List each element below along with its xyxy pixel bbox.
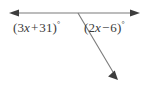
left-angle-constant: 31 (39, 20, 52, 35)
left-angle-degree-symbol: ° (57, 20, 60, 29)
right-angle-constant: 6 (110, 20, 117, 35)
right-angle-operator: − (101, 20, 110, 35)
left-angle-operator: + (30, 20, 39, 35)
left-angle-label: (3x+31)° (13, 21, 60, 34)
angle-diagram-figure: (3x+31)° (2x−6)° (0, 0, 147, 94)
right-angle-degree-symbol: ° (121, 20, 124, 29)
right-angle-label: (2x−6)° (84, 21, 125, 34)
right-arrowhead-icon (130, 9, 140, 16)
geometry-canvas (0, 0, 147, 94)
left-arrowhead-icon (9, 9, 19, 16)
